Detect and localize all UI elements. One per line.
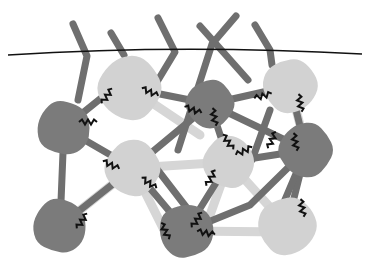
sphere-network-diagram [0,0,369,263]
